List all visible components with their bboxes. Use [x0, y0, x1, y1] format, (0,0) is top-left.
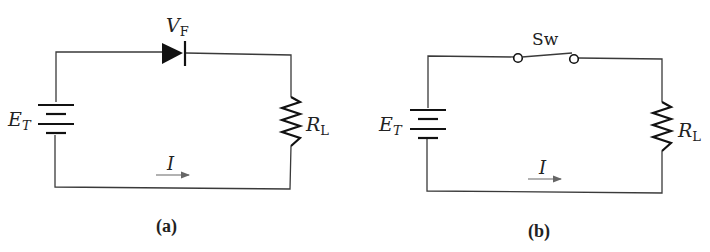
switch-icon	[514, 53, 579, 63]
current-label-a: I	[166, 153, 175, 174]
resistor-icon	[282, 97, 300, 146]
battery-icon	[410, 110, 446, 138]
current-label-b: I	[538, 157, 547, 178]
circuit-figure: ET VF RL I (a)	[0, 0, 710, 252]
caption-a: (a)	[156, 216, 177, 237]
load-label-b: RL	[677, 119, 701, 144]
diode-label: VF	[166, 14, 189, 39]
resistor-icon	[653, 102, 671, 151]
switch-label: Sw	[532, 29, 559, 49]
diode-icon	[162, 41, 185, 66]
circuit-b: ET Sw RL I (b)	[378, 29, 701, 242]
source-label-b: ET	[378, 113, 403, 138]
battery-icon	[38, 105, 74, 133]
source-label-a: ET	[7, 108, 32, 133]
caption-b: (b)	[528, 221, 550, 242]
load-label-a: RL	[305, 113, 329, 138]
circuit-a: ET VF RL I (a)	[7, 14, 329, 237]
